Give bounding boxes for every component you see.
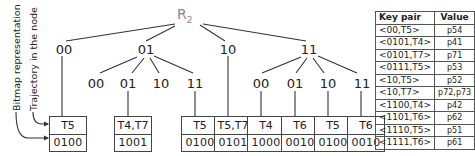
node-01-01: 01 (113, 77, 143, 91)
table-row: <0111,T5>p53 (376, 62, 475, 75)
value-cell: p62 (435, 112, 475, 125)
value-cell: p42 (435, 99, 475, 112)
leaf-node: T5 0100 (49, 116, 87, 152)
value-cell: p72,p73 (435, 87, 475, 100)
key-cell: <10,T7> (376, 87, 435, 100)
leaf-trajectory: T4 (248, 117, 284, 135)
leaf-trajectory: T6 (282, 117, 318, 135)
leaf-trajectory: T5 (315, 117, 351, 135)
leaf-trajectory: T5,T7 (215, 117, 251, 135)
root-label: R (177, 6, 187, 22)
node-01: 01 (131, 43, 161, 57)
leaf-bitmap: 0100 (315, 135, 351, 151)
table-row: <1110,T5>p51 (376, 124, 475, 137)
table-row: <10,T7>p72,p73 (376, 87, 475, 100)
key-value-table: Key pair Value <00,T5>p54 <0101,T4>p41 <… (375, 11, 475, 150)
key-cell: <0101,T7> (376, 49, 435, 62)
leaf-bitmap: 1000 (248, 135, 284, 151)
leaf-bitmap: 0101 (215, 135, 251, 151)
value-cell: p53 (435, 62, 475, 75)
table-row: <0101,T7>p71 (376, 49, 475, 62)
node-01-11: 11 (180, 77, 210, 91)
header-key-pair: Key pair (376, 12, 435, 25)
table-row: <1100,T4>p42 (376, 99, 475, 112)
value-cell: p51 (435, 124, 475, 137)
node-11-11: 11 (347, 77, 377, 91)
root-node-r2: R2 (177, 6, 192, 25)
node-11-10: 10 (313, 77, 343, 91)
value-cell: p61 (435, 137, 475, 150)
leaf-bitmap: 1001 (115, 135, 151, 151)
table-row: <1101,T6>p62 (376, 112, 475, 125)
node-11-01: 01 (280, 77, 310, 91)
leaf-trajectory: T5 (50, 117, 86, 135)
node-10: 10 (213, 43, 243, 57)
root-subscript: 2 (187, 15, 193, 25)
table-row: <0101,T4>p41 (376, 37, 475, 50)
leaf-trajectory: T4,T7 (115, 117, 151, 135)
key-cell: <10,T5> (376, 74, 435, 87)
leaf-bitmap: 0100 (50, 135, 86, 151)
leaf-trajectory: T5 (182, 117, 218, 135)
trajectory-in-node-label: Trajectory in the node (28, 7, 39, 111)
key-cell: <0101,T4> (376, 37, 435, 50)
key-cell: <1111,T6> (376, 137, 435, 150)
node-00: 00 (49, 43, 79, 57)
leaf-node: T4 1000 (247, 116, 285, 152)
key-cell: <0111,T5> (376, 62, 435, 75)
leaf-node: T4,T7 1001 (114, 116, 152, 152)
key-cell: <1110,T5> (376, 124, 435, 137)
key-cell: <1101,T6> (376, 112, 435, 125)
value-cell: p52 (435, 74, 475, 87)
leaf-bitmap: 0100 (182, 135, 218, 151)
table-row: <1111,T6>p61 (376, 137, 475, 150)
table-row: <10,T5>p52 (376, 74, 475, 87)
node-01-10: 10 (146, 77, 176, 91)
leaf-bitmap: 0010 (282, 135, 318, 151)
table-header-row: Key pair Value (376, 12, 475, 25)
value-cell: p41 (435, 37, 475, 50)
node-11: 11 (294, 43, 324, 57)
node-01-00: 00 (81, 77, 111, 91)
value-cell: p71 (435, 49, 475, 62)
key-cell: <00,T5> (376, 24, 435, 37)
node-11-00: 00 (246, 77, 276, 91)
table-row: <00,T5>p54 (376, 24, 475, 37)
bitmap-representation-label: Bitmap representation (11, 4, 22, 111)
key-cell: <1100,T4> (376, 99, 435, 112)
header-value: Value (435, 12, 475, 25)
value-cell: p54 (435, 24, 475, 37)
